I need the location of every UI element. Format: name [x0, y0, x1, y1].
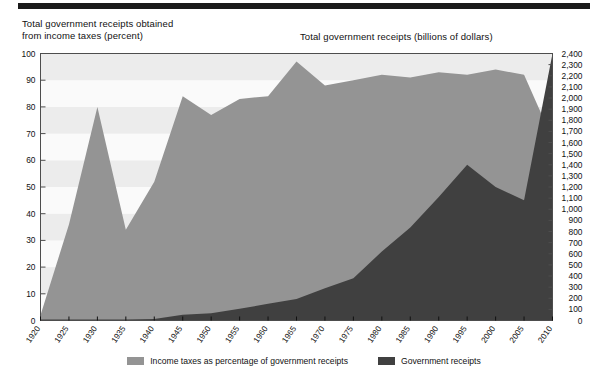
- right-tick-label: 600: [569, 249, 583, 259]
- x-tick-label: 1920: [24, 324, 42, 344]
- x-tick-label: 1935: [110, 324, 128, 344]
- x-tick-label: 1925: [53, 324, 71, 344]
- right-tick-label: 700: [569, 238, 583, 248]
- legend-label: Government receipts: [401, 356, 481, 366]
- right-tick-label: 1,400: [562, 160, 583, 170]
- right-tick-label: 1,900: [562, 104, 583, 114]
- right-tick-label: 2,400: [562, 49, 583, 59]
- x-tick-label: 1945: [167, 324, 185, 344]
- right-tick-label: 400: [569, 271, 583, 281]
- right-tick-label: 2,300: [562, 60, 583, 70]
- legend-swatch: [127, 357, 144, 365]
- right-tick-label: 900: [569, 215, 583, 225]
- x-tick-label: 1965: [280, 324, 298, 344]
- chart-canvas: 0102030405060708090100 01002003004005006…: [0, 0, 608, 387]
- x-tick-label: 1975: [337, 324, 355, 344]
- left-tick-label: 90: [26, 75, 36, 85]
- right-tick-label: 2,000: [562, 93, 583, 103]
- left-tick-label: 80: [26, 102, 36, 112]
- x-tick-label: 2010: [536, 324, 554, 344]
- legend-label: Income taxes as percentage of government…: [150, 356, 348, 366]
- right-tick-label: 1,600: [562, 138, 583, 148]
- right-tick-label: 1,200: [562, 182, 583, 192]
- right-tick-label: 1,500: [562, 149, 583, 159]
- right-tick-label: 1,300: [562, 171, 583, 181]
- right-tick-label: 1,800: [562, 115, 583, 125]
- right-tick-label: 1,700: [562, 126, 583, 136]
- x-tick-label: 1995: [451, 324, 469, 344]
- right-tick-label: 800: [569, 227, 583, 237]
- right-tick-label: 2,200: [562, 71, 583, 81]
- area-chart-plot: 0102030405060708090100 01002003004005006…: [0, 0, 608, 387]
- right-tick-label: 100: [569, 304, 583, 314]
- right-tick-label: 1,100: [562, 193, 583, 203]
- right-tick-label: 300: [569, 282, 583, 292]
- legend-swatch: [378, 357, 395, 365]
- x-tick-label: 1960: [252, 324, 270, 344]
- x-tick-label: 1990: [423, 324, 441, 344]
- x-tick-label: 1940: [138, 324, 156, 344]
- left-tick-label: 100: [22, 49, 36, 59]
- x-tick-label: 2000: [479, 324, 497, 344]
- left-tick-label: 20: [26, 262, 36, 272]
- x-tick-label: 1985: [394, 324, 412, 344]
- left-tick-label: 30: [26, 235, 36, 245]
- left-tick-label: 10: [26, 289, 36, 299]
- chart-legend: Income taxes as percentage of government…: [0, 352, 608, 370]
- x-tick-label: 1970: [309, 324, 327, 344]
- x-tick-label: 1980: [366, 324, 384, 344]
- right-axis-ticks: 01002003004005006007008009001,0001,1001,…: [549, 49, 583, 326]
- right-tick-label: 500: [569, 260, 583, 270]
- left-tick-label: 70: [26, 129, 36, 139]
- right-tick-label: 0: [578, 316, 583, 326]
- right-tick-label: 1,000: [562, 204, 583, 214]
- left-tick-label: 0: [31, 316, 36, 326]
- x-tick-label: 2005: [508, 324, 526, 344]
- left-tick-label: 60: [26, 155, 36, 165]
- x-tick-label: 1930: [81, 324, 99, 344]
- right-tick-label: 200: [569, 293, 583, 303]
- right-tick-label: 2,100: [562, 82, 583, 92]
- x-tick-label: 1950: [195, 324, 213, 344]
- chart-page: Total government receipts obtained from …: [0, 0, 608, 387]
- left-tick-label: 50: [26, 182, 36, 192]
- legend-item: Income taxes as percentage of government…: [127, 356, 348, 366]
- legend-item: Government receipts: [378, 356, 481, 366]
- x-tick-label: 1955: [223, 324, 241, 344]
- left-tick-label: 40: [26, 209, 36, 219]
